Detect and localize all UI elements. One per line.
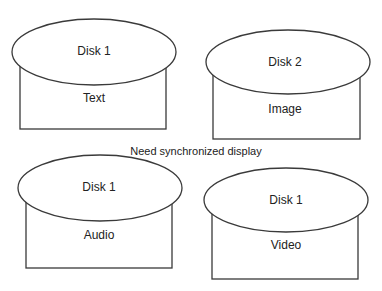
disk-audio: Disk 1 Audio	[18, 155, 182, 268]
media-label: Video	[271, 238, 302, 252]
media-label: Image	[268, 102, 302, 116]
disk-video: Disk 1 Video	[204, 168, 368, 279]
disk-image: Disk 2 Image	[206, 30, 370, 139]
disk-label: Disk 1	[77, 44, 111, 58]
disk-label: Disk 1	[82, 180, 116, 194]
media-label: Text	[83, 91, 106, 105]
multimedia-sync-diagram: Disk 1 Text Disk 2 Image Need synchroniz…	[0, 0, 382, 291]
sync-caption: Need synchronized display	[130, 145, 262, 157]
disk-text: Disk 1 Text	[12, 19, 176, 129]
media-label: Audio	[84, 228, 115, 242]
disk-label: Disk 1	[269, 193, 303, 207]
disk-label: Disk 2	[268, 55, 302, 69]
